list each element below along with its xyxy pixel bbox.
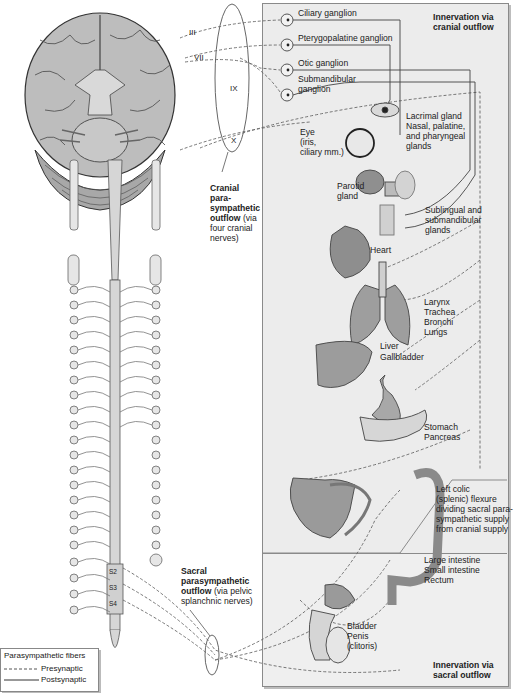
intestine-label-1: Large intestine (424, 555, 480, 565)
cranial-outflow-label-5: four cranial (210, 223, 253, 233)
colic-flexure-label-2: (splenic) flexure (436, 494, 497, 504)
liver-label-1: Liver (380, 341, 399, 351)
cranial-outflow-label-1: Cranial (210, 183, 239, 193)
colic-flexure-label-4: sympathetic supply (436, 514, 509, 524)
sacral-outflow-bold: outflow (181, 586, 212, 596)
segment-S3: S3 (109, 583, 117, 593)
sacral-panel-header-1: Innervation via (433, 660, 494, 670)
pelvic-label-2: Penis (347, 631, 369, 641)
respiratory-label-1: Larynx (424, 297, 450, 307)
cranial-nerve-VII: VII (194, 53, 204, 63)
intestine-label-2: Small intestine (424, 565, 480, 575)
lacrimal-label-2: Nasal, palatine, (406, 121, 465, 131)
cranial-outflow-label-3: sympathetic (210, 203, 260, 213)
cranial-outflow-label-2: para- (210, 193, 231, 203)
parotid-label-2: gland (337, 191, 358, 201)
organ-illustrations (290, 103, 440, 663)
cranial-outflow-label-6: nerves) (210, 233, 239, 243)
lacrimal-label-3: and pharyngeal (406, 131, 465, 141)
ganglion-dots (287, 19, 290, 97)
cranial-panel-header-2: cranial outflow (433, 22, 494, 32)
lacrimal-label-4: glands (406, 141, 431, 151)
cranial-nerve-X: X (231, 136, 236, 146)
respiratory-label-2: Trachea (424, 307, 455, 317)
respiratory-label-4: Lungs (424, 327, 447, 337)
sacral-outflow-label-4: splanchnic nerves) (181, 596, 253, 606)
cranial-outflow-label-4: outflow (via (210, 213, 257, 223)
submandibular-ganglion-label-1: Submandibular (298, 74, 356, 84)
segment-S4: S4 (109, 599, 117, 609)
legend-presynaptic: Presynaptic (41, 664, 83, 673)
legend-postsynaptic: Postsynaptic (41, 675, 86, 684)
left-chain (68, 160, 79, 614)
segment-S2: S2 (109, 567, 117, 577)
legend-title: Parasympathetic fibers (4, 651, 85, 660)
eye-label-2: (iris, (300, 137, 316, 147)
heart-label: Heart (370, 245, 391, 255)
eye-label-3: ciliary mm.) (300, 147, 344, 157)
ciliary-ganglion-label: Ciliary ganglion (298, 8, 357, 18)
otic-ganglion-label: Otic ganglion (298, 58, 348, 68)
sublingual-label-3: glands (425, 225, 450, 235)
sacral-outflow-label-1: Sacral (181, 566, 207, 576)
colic-flexure-label-5: from cranial supply (436, 524, 508, 534)
eye-label-1: Eye (300, 127, 315, 137)
colic-flexure-label-1: Left colic (436, 484, 470, 494)
intestine-label-3: Rectum (424, 575, 454, 585)
legend: Parasympathetic fibers Presynaptic Posts… (0, 648, 99, 692)
stomach-label-2: Pancreas (424, 432, 460, 442)
cranial-nerve-III: III (189, 28, 196, 38)
pelvic-label-3: (clitoris) (347, 641, 377, 651)
cranial-outflow-bold: outflow (210, 213, 241, 223)
sacral-nerve-bundle (205, 635, 219, 675)
cranial-nerve-IX: IX (230, 84, 238, 94)
ganglia (281, 14, 293, 101)
parotid-label-1: Parotid (337, 181, 364, 191)
right-chain (150, 160, 162, 566)
sublingual-label-1: Sublingual and (425, 205, 482, 215)
sublingual-label-2: submandibular (425, 215, 481, 225)
cranial-outflow-note: (via (241, 213, 257, 223)
sacral-outflow-label-3: outflow (via pelvic (181, 586, 252, 596)
colic-flexure-label-3: dividing sacral para- (436, 504, 513, 514)
cranial-panel-header-1: Innervation via (433, 12, 494, 22)
pterygopalatine-ganglion-label: Pterygopalatine ganglion (298, 33, 393, 43)
lacrimal-label-1: Lacrimal gland (406, 111, 462, 121)
liver-label-2: Gallbladder (380, 352, 424, 362)
submandibular-ganglion-label-2: ganglion (298, 84, 331, 94)
sacral-outflow-note: (via pelvic (212, 586, 253, 596)
pelvic-label-1: Bladder (347, 621, 377, 631)
sacral-outflow-label-2: parasympathetic (181, 576, 249, 586)
respiratory-label-3: Bronchi (424, 317, 453, 327)
sacral-panel-header-2: sacral outflow (433, 670, 491, 680)
stomach-label-1: Stomach (424, 422, 458, 432)
legend-swatches (4, 663, 44, 693)
